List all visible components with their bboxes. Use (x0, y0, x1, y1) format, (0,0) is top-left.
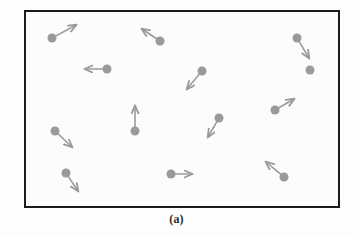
figure-caption: (a) (0, 212, 353, 227)
figure-container: (a) (0, 0, 353, 235)
gas-container-boundary (24, 10, 340, 208)
